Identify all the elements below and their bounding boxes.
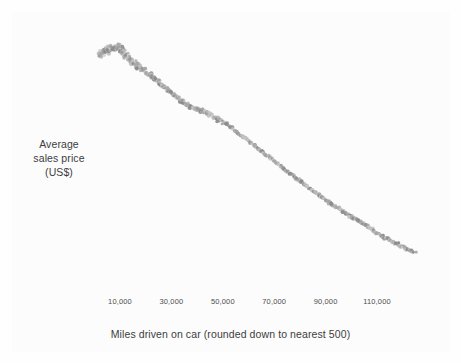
y-axis-title-line-1: Average (14, 137, 104, 151)
x-axis-tick-label: 50,000 (211, 297, 235, 306)
x-axis-tick-label: 10,000 (108, 297, 132, 306)
chart-figure: Average sales price (US$) 10,00030,00050… (0, 0, 461, 363)
scatter-point (143, 67, 147, 71)
scatter-point (124, 54, 127, 57)
x-axis-tick-label: 110,000 (363, 297, 391, 306)
scatter-point (411, 251, 414, 254)
x-axis-title: Miles driven on car (rounded down to nea… (0, 328, 461, 340)
scatter-point (415, 251, 418, 254)
y-axis-title: Average sales price (US$) (14, 137, 104, 179)
scatter-point (225, 122, 229, 126)
x-axis-tick-label: 90,000 (314, 297, 338, 306)
scatter-point (135, 67, 139, 71)
scatter-point (401, 246, 404, 249)
y-axis-title-line-3: (US$) (14, 165, 104, 179)
scatter-point (122, 51, 125, 54)
scatter-points-group (97, 42, 418, 253)
x-axis-tick-labels: 10,00030,00050,00070,00090,000110,000 (0, 297, 461, 309)
x-axis-tick-label: 30,000 (159, 297, 183, 306)
x-axis-tick-label: 70,000 (262, 297, 286, 306)
y-axis-title-line-2: sales price (14, 151, 104, 165)
